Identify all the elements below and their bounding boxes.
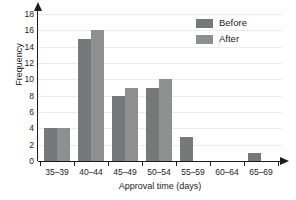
bar-before xyxy=(180,137,193,162)
y-tick-label: 2 xyxy=(8,141,34,150)
x-tick xyxy=(278,162,279,166)
x-tick xyxy=(176,162,177,166)
bar-group xyxy=(142,14,176,161)
legend-label-before: Before xyxy=(219,18,247,28)
legend-label-after: After xyxy=(219,34,239,44)
legend: Before After xyxy=(196,16,247,48)
legend-swatch-after-icon xyxy=(196,35,213,44)
x-tick xyxy=(244,162,245,166)
bar-before xyxy=(78,39,91,162)
bar-after xyxy=(91,30,104,161)
y-axis-title: Frequency xyxy=(15,20,24,110)
bar-chart: 18 16 14 12 10 8 6 4 2 0 Frequency xyxy=(0,0,296,200)
bar-group xyxy=(40,14,74,161)
bar-before xyxy=(248,153,261,161)
x-tick xyxy=(142,162,143,166)
y-tick-label: 0 xyxy=(8,157,34,166)
x-tick xyxy=(210,162,211,166)
bar-group xyxy=(74,14,108,161)
legend-swatch-before-icon xyxy=(196,19,213,28)
bar-after xyxy=(125,88,138,162)
x-tick xyxy=(108,162,109,166)
x-tick xyxy=(74,162,75,166)
y-tick-label: 18 xyxy=(8,10,34,19)
bar-group xyxy=(108,14,142,161)
bar-group xyxy=(244,14,278,161)
x-axis-title: Approval time (days) xyxy=(38,182,282,191)
bar-before xyxy=(44,128,57,161)
x-tick xyxy=(40,162,41,166)
legend-item-after: After xyxy=(196,32,247,46)
y-axis-arrow-icon xyxy=(34,2,42,11)
bar-before xyxy=(112,96,125,161)
x-tick-label: 65–69 xyxy=(235,168,287,177)
bar-after xyxy=(159,79,172,161)
legend-item-before: Before xyxy=(196,16,247,30)
y-tick-label: 4 xyxy=(8,124,34,133)
bar-before xyxy=(146,88,159,162)
bar-after xyxy=(57,128,70,161)
